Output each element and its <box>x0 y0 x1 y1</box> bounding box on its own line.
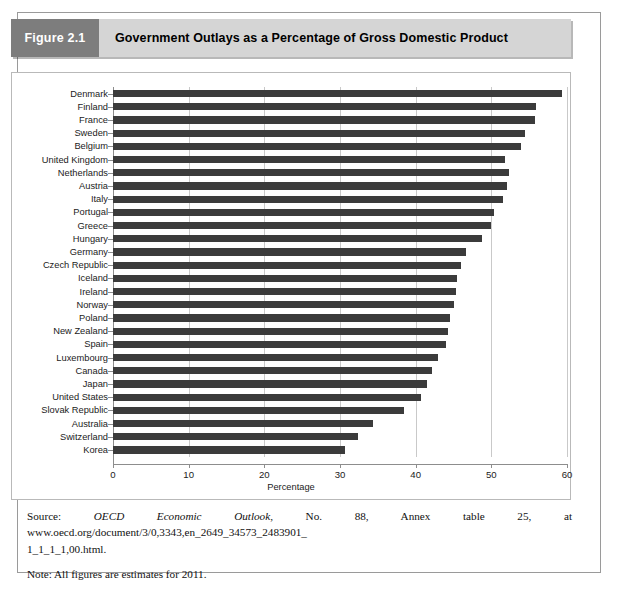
y-axis-tick <box>108 292 113 293</box>
y-axis-category-label: France <box>12 115 108 125</box>
x-axis-tick <box>264 464 265 468</box>
x-axis-tick <box>340 464 341 468</box>
bar-row <box>113 430 567 443</box>
bar <box>113 380 427 387</box>
bar-row <box>113 377 567 390</box>
x-axis-tick <box>416 464 417 468</box>
y-axis-tick <box>108 94 113 95</box>
y-axis-tick <box>108 160 113 161</box>
y-axis-category-label: Iceland <box>12 273 108 283</box>
bar-row <box>113 417 567 430</box>
y-axis-category-label: Hungary <box>12 234 108 244</box>
x-axis-tick-label: 20 <box>259 469 270 480</box>
bar <box>113 248 466 255</box>
x-axis-title: Percentage <box>12 482 570 492</box>
bar <box>113 143 521 150</box>
y-axis-tick <box>108 358 113 359</box>
y-axis-category-label: Austria <box>12 181 108 191</box>
y-axis-tick <box>108 107 113 108</box>
bar <box>113 341 446 348</box>
source-publication: OECD Economic Outlook <box>94 510 270 522</box>
bar-row <box>113 166 567 179</box>
y-axis-category-label: United Kingdom <box>12 155 108 165</box>
y-axis-tick <box>108 278 113 279</box>
x-axis-tick-label: 50 <box>486 469 497 480</box>
x-axis-tick-label: 60 <box>562 469 573 480</box>
bar-row <box>113 87 567 100</box>
x-axis-tick <box>113 464 114 468</box>
y-axis-category-label: Germany <box>12 247 108 257</box>
y-axis-category-label: Luxembourg <box>12 353 108 363</box>
y-axis-category-label: Netherlands <box>12 168 108 178</box>
y-axis-category-label: Australia <box>12 419 108 429</box>
bar-row <box>113 206 567 219</box>
y-axis-tick <box>108 173 113 174</box>
y-axis-tick <box>108 226 113 227</box>
bar <box>113 169 509 176</box>
bar-row <box>113 338 567 351</box>
figure-root: Figure 2.1 Government Outlays as a Perce… <box>0 0 618 589</box>
x-axis-tick-label: 10 <box>183 469 194 480</box>
bar <box>113 103 536 110</box>
bar <box>113 288 456 295</box>
bar-row <box>113 364 567 377</box>
y-axis-category-label: Ireland <box>12 287 108 297</box>
bar-row <box>113 219 567 232</box>
bar-row <box>113 443 567 456</box>
y-axis-tick <box>108 120 113 121</box>
bar-row <box>113 153 567 166</box>
y-axis-tick <box>108 305 113 306</box>
bar-row <box>113 272 567 285</box>
bar <box>113 275 457 282</box>
bar-row <box>113 311 567 324</box>
bar-row <box>113 325 567 338</box>
y-axis-tick <box>108 212 113 213</box>
y-axis-tick <box>108 252 113 253</box>
bar <box>113 90 562 97</box>
gridline <box>567 87 568 457</box>
x-axis-tick <box>491 464 492 468</box>
source-prefix: Source: <box>27 510 94 522</box>
bar <box>113 262 461 269</box>
y-axis-tick <box>108 239 113 240</box>
bar <box>113 235 482 242</box>
y-axis-tick <box>108 318 113 319</box>
bar-row <box>113 179 567 192</box>
y-axis-category-label: Spain <box>12 339 108 349</box>
x-axis-tick-label: 0 <box>110 469 115 480</box>
y-axis-category-label: Belgium <box>12 141 108 151</box>
bar <box>113 407 404 414</box>
x-axis-tick <box>189 464 190 468</box>
y-axis-tick <box>108 146 113 147</box>
bar <box>113 116 535 123</box>
bar-row <box>113 232 567 245</box>
y-axis-category-label: Poland <box>12 313 108 323</box>
bar-row <box>113 127 567 140</box>
y-axis-category-label: Denmark <box>12 89 108 99</box>
y-axis-category-label: Czech Republic <box>12 260 108 270</box>
figure-number-badge: Figure 2.1 <box>11 19 99 57</box>
y-axis-tick <box>108 384 113 385</box>
bar-row <box>113 245 567 258</box>
bar-row <box>113 193 567 206</box>
bar-row <box>113 140 567 153</box>
y-axis-category-label: Finland <box>12 102 108 112</box>
bar-row <box>113 259 567 272</box>
bar-row <box>113 298 567 311</box>
y-axis-category-label: Slovak Republic <box>12 405 108 415</box>
y-axis-category-label: Switzerland <box>12 432 108 442</box>
bar <box>113 156 505 163</box>
bar <box>113 209 494 216</box>
y-axis-category-label: Japan <box>12 379 108 389</box>
y-axis-tick <box>108 410 113 411</box>
y-axis-tick <box>108 133 113 134</box>
y-axis-tick <box>108 331 113 332</box>
bar <box>113 367 432 374</box>
bar-row <box>113 100 567 113</box>
bar <box>113 182 507 189</box>
note-line: Note: All figures are estimates for 2011… <box>27 567 572 583</box>
x-axis-tick-label: 40 <box>410 469 421 480</box>
source-line: Source: OECD Economic Outlook, No. 88, A… <box>27 509 572 540</box>
y-axis-tick <box>108 186 113 187</box>
y-axis-category-label: Norway <box>12 300 108 310</box>
